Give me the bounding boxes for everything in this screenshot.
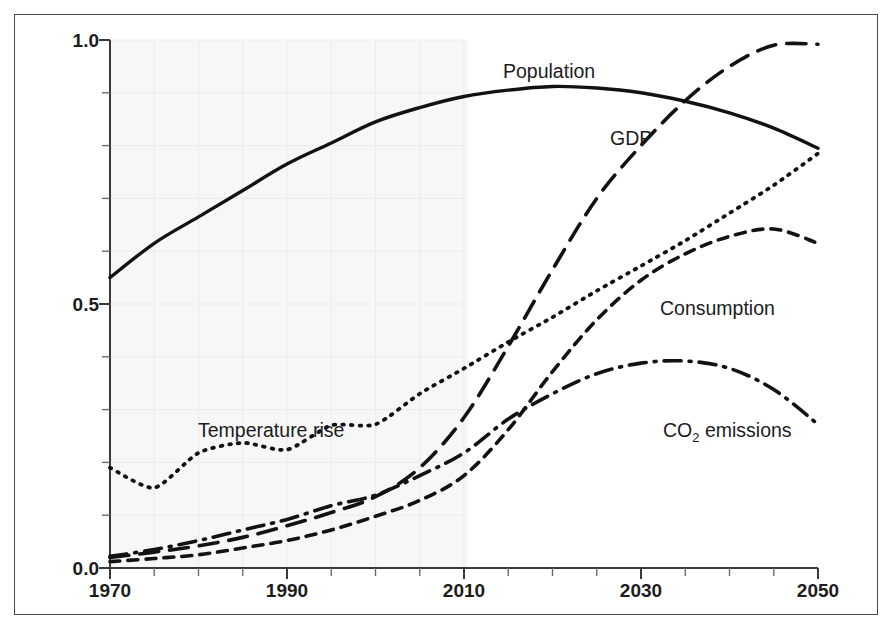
co2-label-subscript: 2 [692, 430, 699, 445]
x-axis: 1970 1990 2010 2030 2050 [89, 568, 839, 601]
series-label-temperature-rise: Temperature rise [198, 419, 344, 441]
co2-label-base: CO [663, 419, 692, 441]
figure-root: 1.0 0.5 0.0 1970 1990 2010 2030 2050 Pop… [0, 0, 896, 635]
y-tick-label-0: 0.0 [73, 558, 99, 579]
line-chart: 1.0 0.5 0.0 1970 1990 2010 2030 2050 Pop… [0, 0, 896, 635]
x-tick-label-1990: 1990 [266, 580, 308, 601]
series-label-co2-emissions: CO2 emissions [663, 419, 792, 445]
x-tick-label-2010: 2010 [443, 580, 485, 601]
series-label-population: Population [503, 60, 595, 82]
y-tick-label-1: 1.0 [73, 30, 99, 51]
y-axis-ticks [99, 40, 110, 568]
x-tick-label-2050: 2050 [797, 580, 839, 601]
co2-label-tail: emissions [699, 419, 791, 441]
series-label-gdp: GDP [610, 127, 652, 149]
series-label-consumption: Consumption [660, 297, 775, 319]
x-tick-label-1970: 1970 [89, 580, 131, 601]
x-tick-label-2030: 2030 [620, 580, 662, 601]
y-axis: 1.0 0.5 0.0 [73, 30, 110, 579]
y-tick-label-0-5: 0.5 [73, 294, 100, 315]
x-axis-ticks [110, 568, 818, 579]
